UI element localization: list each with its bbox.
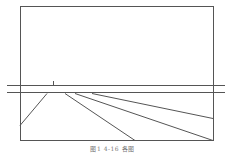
figure-caption: 图1 4-16 各图: [0, 144, 225, 153]
horizontal-lines: [7, 86, 225, 93]
diagonal-line: [75, 94, 213, 141]
diagonal-line: [92, 94, 213, 119]
diagonal-lines: [20, 94, 213, 141]
frame-rectangle: [21, 7, 214, 141]
line-diagram: [0, 0, 225, 155]
diagonal-line: [20, 94, 47, 126]
